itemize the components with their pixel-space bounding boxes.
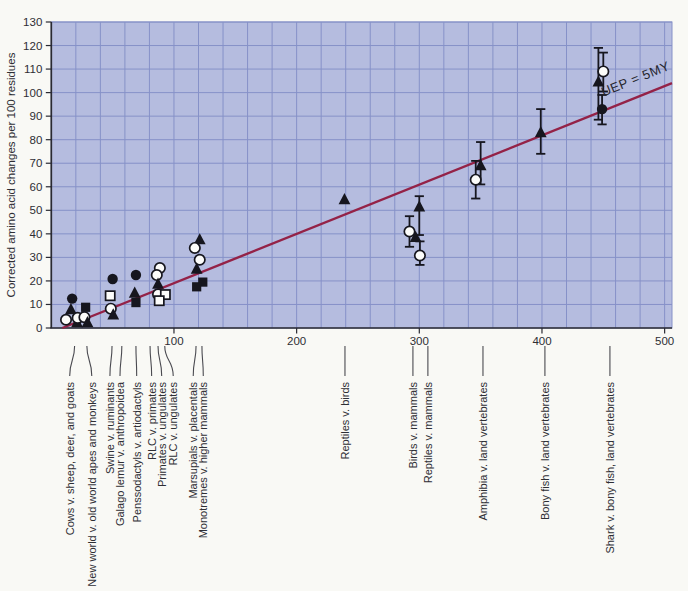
comparison-label: Reptiles v. mammals [422,382,434,484]
comparison-label: Birds v. mammals [407,382,419,469]
data-point-circle-filled [131,270,141,280]
data-point-square-open [155,296,164,305]
data-point-circle-open [471,175,481,185]
y-axis-title: Corrected amino acid changes per 100 res… [5,52,17,297]
y-tick-label: 90 [30,110,43,122]
comparison-connector [193,346,196,376]
y-tick-label: 120 [23,40,42,52]
data-point-square-filled [192,282,201,291]
x-tick-label: 200 [287,335,306,347]
data-point-circle-filled [107,274,117,284]
y-tick-label: 110 [24,63,42,75]
comparison-labels-layer: Cows v. sheep, deer, and goatsNew world … [64,346,616,587]
data-point-circle-open [190,243,200,253]
comparison-connector [202,346,203,376]
y-tick-label: 0 [36,322,42,334]
comparison-label: Penssodactyls v. artiodactyls [131,382,143,523]
data-point-circle-open [152,270,162,280]
y-tick-label: 60 [30,181,43,193]
data-point-circle-filled [67,293,77,303]
y-tick-label: 40 [30,228,43,240]
y-tick-label: 80 [30,134,43,146]
comparison-label: Galago lemur v. anthropoidea [114,381,126,526]
y-tick-label: 20 [30,275,43,287]
comparison-label: Shark v. bony fish, land vertebrates [604,382,616,554]
data-point-circle-open [195,255,205,265]
comparison-label: Amphibia v. land vertebrates [477,382,489,521]
data-point-circle-open [415,250,425,260]
grid-layer [51,22,672,328]
y-tick-label: 100 [23,87,42,99]
comparison-label: Bony fish v. land vertebrates [539,382,551,520]
comparison-connector [136,346,137,376]
comparison-label: Monotremes v. higher mammals [197,382,209,539]
x-tick-label: 300 [410,335,429,347]
molecular-clock-chart: 0102030405060708090100110120130100200300… [0,0,688,591]
comparison-label: RLC v. ungulates [167,382,179,466]
x-tick-label: 500 [655,335,674,347]
comparison-label: Cows v. sheep, deer, and goats [64,382,76,536]
molecular-clock-figure: 0102030405060708090100110120130100200300… [0,0,688,591]
data-point-square-open [106,291,115,300]
comparison-connector [87,346,92,376]
y-tick-label: 10 [30,298,43,310]
comparison-connector [120,346,122,376]
y-tick-label: 50 [30,204,43,216]
data-point-circle-open [61,315,71,325]
comparison-connector [70,346,75,376]
data-point-square-filled [131,298,140,307]
comparison-connector [150,346,152,376]
comparison-label: New world v. old world apes and monkeys [86,382,98,587]
data-point-square-filled [81,303,90,312]
comparison-connector [110,346,112,376]
y-tick-label: 70 [30,157,43,169]
data-point-circle-filled [597,104,607,114]
comparison-label: Primates v. ungulates [156,382,168,487]
comparison-connector [165,346,173,376]
plot-background [51,22,672,328]
x-tick-label: 400 [532,335,551,347]
data-point-circle-open [598,66,608,76]
data-point-circle-open [404,226,414,236]
x-tick-label: 100 [164,335,183,347]
comparison-connector [158,346,162,376]
y-tick-label: 130 [23,16,42,28]
comparison-label: Reptiles v. birds [339,382,351,460]
y-tick-label: 30 [30,251,43,263]
